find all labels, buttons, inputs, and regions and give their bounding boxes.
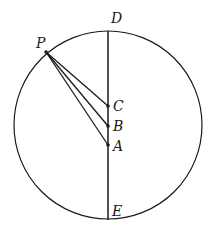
label-P: P [35,35,46,51]
label-E: E [111,203,122,219]
geometry-diagram: P D C B A E [0,0,211,236]
segment-PB [46,52,108,126]
label-C: C [113,98,124,114]
label-A: A [111,138,123,154]
label-D: D [110,10,122,26]
point-B [106,124,110,128]
point-A [106,143,110,147]
label-B: B [112,118,123,134]
point-C [106,104,110,108]
